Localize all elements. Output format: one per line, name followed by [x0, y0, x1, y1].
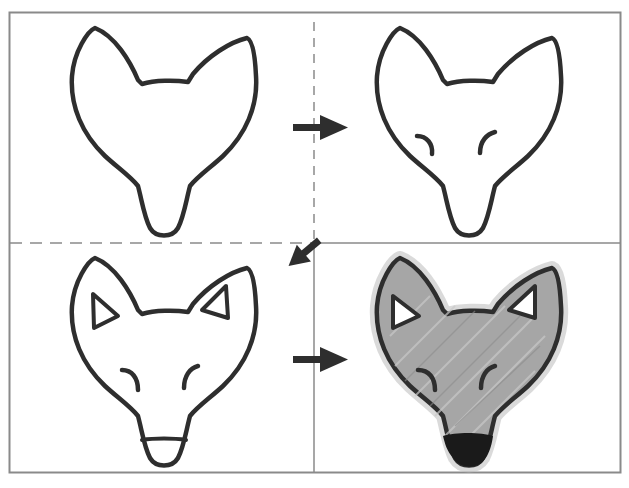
arrow-step3-to-step4-icon [293, 347, 348, 372]
step-1-panel [72, 28, 256, 236]
step-4-panel [377, 258, 561, 467]
nose-tip-line [142, 439, 186, 441]
arrow-step1-to-step2-icon [293, 115, 348, 140]
arrow-step2-to-step3-icon [281, 232, 326, 275]
fox-drawing-steps-diagram [0, 0, 629, 488]
step-3-panel [72, 258, 256, 466]
step-2-panel [377, 28, 561, 236]
